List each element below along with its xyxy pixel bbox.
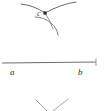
label-point-b: b: [78, 68, 83, 77]
partial-line-left: [36, 100, 47, 111]
arc-lower: [35, 17, 58, 35]
label-point-a: a: [10, 68, 15, 77]
partial-line-right: [53, 99, 68, 111]
intersection-point-c: [43, 11, 46, 14]
construction-drawing: [0, 0, 105, 111]
arc-from-b: [45, 2, 76, 13]
geometry-figure: c a b: [0, 0, 105, 111]
label-point-c: c: [37, 10, 41, 18]
segment-ab: [2, 62, 96, 63]
arc-from-a: [21, 4, 45, 13]
